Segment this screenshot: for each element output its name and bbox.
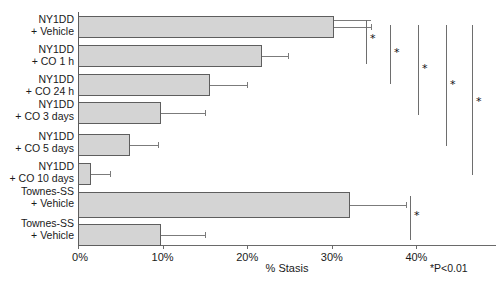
category-label: NY1DD + CO 3 days xyxy=(0,99,74,122)
stasis-bar-chart: NY1DD + Vehicle NY1DD + CO 1 h NY1DD + C… xyxy=(0,0,500,285)
significance-asterisk: * xyxy=(422,63,428,74)
category-label: Townes-SS + Vehicle xyxy=(0,218,74,241)
bar xyxy=(78,134,130,156)
error-bar-cap xyxy=(371,24,372,30)
category-label: NY1DD + CO 1 h xyxy=(0,44,74,67)
significance-line xyxy=(390,25,391,84)
significance-line xyxy=(366,20,367,64)
significance-bracket-top xyxy=(334,20,371,21)
error-bar xyxy=(262,56,287,57)
error-bar xyxy=(161,235,205,236)
significance-line xyxy=(418,25,419,115)
category-label: NY1DD + Vehicle xyxy=(0,14,74,37)
x-tick xyxy=(416,245,417,249)
bar xyxy=(78,102,161,124)
significance-asterisk: * xyxy=(414,210,420,221)
bar xyxy=(78,74,210,96)
significance-line xyxy=(472,25,473,175)
error-bar xyxy=(161,113,205,114)
significance-footnote: *P<0.01 xyxy=(430,262,468,274)
category-label: NY1DD + CO 10 days xyxy=(0,161,74,184)
bar xyxy=(78,192,350,218)
x-tick xyxy=(332,245,333,249)
significance-asterisk: * xyxy=(370,33,376,44)
significance-asterisk: * xyxy=(476,96,482,107)
category-label-column: NY1DD + Vehicle NY1DD + CO 1 h NY1DD + C… xyxy=(0,0,74,245)
category-label: NY1DD + CO 24 h xyxy=(0,74,74,97)
error-bar-cap xyxy=(288,53,289,59)
category-label: Townes-SS + Vehicle xyxy=(0,186,74,209)
error-bar-cap xyxy=(205,110,206,116)
error-bar xyxy=(350,205,406,206)
error-bar-cap xyxy=(158,142,159,148)
bar xyxy=(78,45,262,67)
error-bar-cap xyxy=(205,232,206,238)
bar xyxy=(78,163,91,185)
x-tick xyxy=(247,245,248,249)
significance-asterisk: * xyxy=(394,47,400,58)
error-bar-cap xyxy=(247,82,248,88)
bar xyxy=(78,16,334,38)
error-bar xyxy=(130,145,158,146)
error-bar xyxy=(91,174,111,175)
significance-line xyxy=(410,196,411,240)
bar xyxy=(78,224,161,246)
x-tick xyxy=(163,245,164,249)
significance-line xyxy=(446,25,447,146)
significance-asterisk: * xyxy=(450,79,456,90)
error-bar-cap xyxy=(406,202,407,208)
category-label: NY1DD + CO 5 days xyxy=(0,131,74,154)
error-bar xyxy=(210,85,247,86)
plot-area: 0% 10% 20% 30% 40% * * xyxy=(78,12,496,245)
error-bar-cap xyxy=(110,171,111,177)
